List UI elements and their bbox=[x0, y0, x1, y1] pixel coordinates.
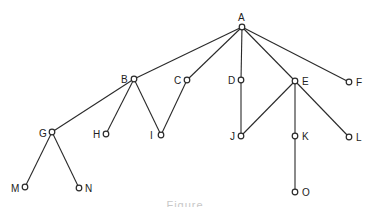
node-label-e: E bbox=[302, 76, 309, 87]
node-label-f: F bbox=[356, 77, 362, 88]
node-g-circle-icon bbox=[49, 129, 55, 135]
node-label-g: G bbox=[39, 128, 47, 139]
edge-a-e bbox=[242, 27, 295, 81]
node-i-circle-icon bbox=[158, 132, 164, 138]
node-label-n: N bbox=[85, 183, 92, 194]
edge-g-n bbox=[52, 132, 79, 188]
node-a-circle-icon bbox=[239, 24, 245, 30]
node-label-h: H bbox=[93, 129, 100, 140]
edge-b-h bbox=[106, 79, 134, 134]
node-label-m: M bbox=[11, 183, 19, 194]
node-c-circle-icon bbox=[184, 77, 190, 83]
node-label-k: K bbox=[302, 131, 309, 142]
edge-b-g bbox=[52, 79, 134, 132]
node-label-d: D bbox=[228, 75, 235, 86]
figure-caption: Figure bbox=[0, 199, 370, 207]
node-label-l: L bbox=[356, 132, 362, 143]
node-label-c: C bbox=[174, 75, 181, 86]
node-l-circle-icon bbox=[346, 134, 352, 140]
node-f-circle-icon bbox=[346, 79, 352, 85]
edge-c-i bbox=[161, 80, 187, 135]
edge-e-j bbox=[241, 81, 295, 136]
node-j-circle-icon bbox=[238, 133, 244, 139]
node-label-a: A bbox=[238, 12, 245, 23]
nodes-layer bbox=[22, 24, 352, 195]
node-n-circle-icon bbox=[76, 185, 82, 191]
edge-e-l bbox=[295, 81, 349, 137]
labels-layer: ABCDEFGHIJKLMNO bbox=[11, 12, 362, 198]
edge-a-c bbox=[187, 27, 242, 80]
edge-a-f bbox=[242, 27, 349, 82]
tree-diagram: ABCDEFGHIJKLMNO bbox=[0, 0, 370, 207]
node-k-circle-icon bbox=[292, 133, 298, 139]
node-d-circle-icon bbox=[238, 77, 244, 83]
node-m-circle-icon bbox=[22, 184, 28, 190]
node-label-b: B bbox=[121, 74, 128, 85]
node-label-j: J bbox=[230, 131, 235, 142]
node-label-i: I bbox=[150, 130, 153, 141]
edge-b-i bbox=[134, 79, 161, 135]
edge-g-m bbox=[25, 132, 52, 187]
node-e-circle-icon bbox=[292, 78, 298, 84]
node-h-circle-icon bbox=[103, 131, 109, 137]
edge-a-b bbox=[134, 27, 242, 79]
node-o-circle-icon bbox=[292, 189, 298, 195]
node-b-circle-icon bbox=[131, 76, 137, 82]
node-label-o: O bbox=[302, 187, 310, 198]
edges-layer bbox=[25, 27, 349, 192]
edge-a-d bbox=[241, 27, 242, 80]
